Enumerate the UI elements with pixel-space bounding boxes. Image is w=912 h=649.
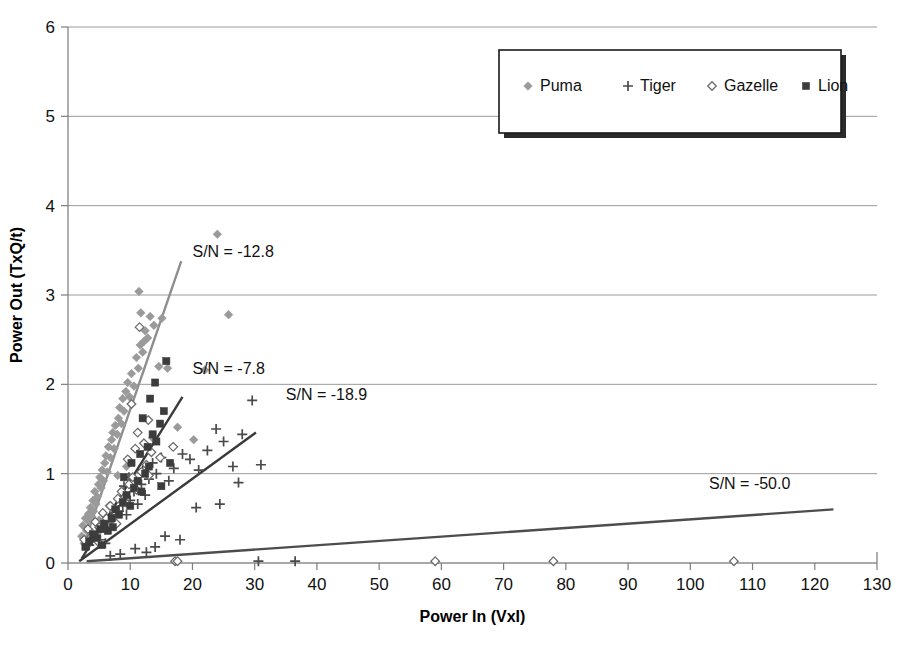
x-tick-label-110: 110 — [739, 575, 766, 594]
annotation-sn-3: S/N = -50.0 — [709, 475, 790, 492]
chart-figure: 0102030405060708090100110120130 0123456 … — [0, 0, 912, 649]
x-tick-label-30: 30 — [245, 575, 264, 594]
x-axis-title: Power In (VxI) — [420, 608, 526, 625]
annotation-sn-0: S/N = -12.8 — [192, 243, 273, 260]
data-point-lion-28 — [139, 415, 146, 422]
x-tick-label-120: 120 — [801, 575, 829, 594]
data-point-lion-25 — [160, 408, 167, 415]
data-point-lion-11 — [123, 492, 130, 499]
data-point-lion-20 — [137, 450, 144, 457]
data-point-lion-33 — [98, 542, 105, 549]
legend-label-lion: Lion — [818, 77, 848, 94]
x-tick-label-60: 60 — [432, 575, 451, 594]
data-point-lion-32 — [109, 524, 116, 531]
data-point-lion-31 — [158, 483, 165, 490]
data-point-lion-23 — [153, 438, 160, 445]
data-point-lion-5 — [100, 520, 107, 527]
x-tick-label-50: 50 — [370, 575, 389, 594]
x-tick-label-40: 40 — [307, 575, 326, 594]
y-tick-label-5: 5 — [46, 107, 55, 126]
y-tick-label-4: 4 — [46, 197, 55, 216]
y-axis-title: Power Out (TxQ/t) — [8, 227, 25, 363]
x-tick-label-0: 0 — [63, 575, 72, 594]
data-point-lion-19 — [128, 459, 135, 466]
data-point-lion-7 — [108, 515, 115, 522]
data-point-lion-13 — [130, 484, 137, 491]
data-point-lion-30 — [166, 459, 173, 466]
data-point-lion-26 — [147, 395, 154, 402]
data-point-lion-18 — [120, 474, 127, 481]
legend-label-puma: Puma — [540, 77, 582, 94]
data-point-lion-12 — [127, 502, 134, 509]
data-point-lion-10 — [119, 499, 126, 506]
data-point-lion-24 — [157, 420, 164, 427]
data-point-lion-16 — [142, 470, 149, 477]
y-tick-label-0: 0 — [46, 554, 55, 573]
x-tick-label-10: 10 — [121, 575, 140, 594]
scatter-plot-canvas: 0102030405060708090100110120130 0123456 … — [0, 0, 912, 649]
data-point-lion-22 — [149, 431, 156, 438]
x-tick-label-130: 130 — [863, 575, 891, 594]
data-point-lion-1 — [86, 538, 93, 545]
annotation-sn-2: S/N = -18.9 — [286, 386, 367, 403]
y-tick-label-2: 2 — [46, 375, 55, 394]
x-tick-label-90: 90 — [619, 575, 638, 594]
chart-legend[interactable]: PumaTigerGazelleLion — [499, 50, 848, 138]
data-point-lion-17 — [145, 463, 152, 470]
data-point-lion-9 — [115, 511, 122, 518]
x-tick-label-100: 100 — [676, 575, 704, 594]
y-tick-label-6: 6 — [46, 18, 55, 37]
y-tick-label-3: 3 — [46, 286, 55, 305]
data-point-lion-3 — [93, 534, 100, 541]
data-point-lion-legend — [802, 82, 809, 89]
data-point-lion-14 — [134, 477, 141, 484]
legend-label-gazelle: Gazelle — [724, 77, 778, 94]
x-tick-label-20: 20 — [183, 575, 202, 594]
data-point-lion-15 — [138, 488, 145, 495]
data-point-lion-27 — [152, 379, 159, 386]
annotation-sn-1: S/N = -7.8 — [192, 360, 265, 377]
data-point-lion-29 — [163, 358, 170, 365]
data-point-lion-21 — [144, 443, 151, 450]
y-tick-label-1: 1 — [46, 465, 55, 484]
x-tick-label-80: 80 — [556, 575, 575, 594]
legend-label-tiger: Tiger — [640, 77, 677, 94]
x-tick-label-70: 70 — [494, 575, 513, 594]
